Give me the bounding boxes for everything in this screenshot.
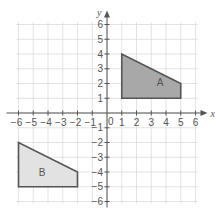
- x-tick-label: −6: [11, 117, 23, 128]
- y-tick-label: 2: [97, 78, 103, 89]
- x-tick-label: −4: [40, 117, 52, 128]
- x-tick-label: −2: [70, 117, 82, 128]
- shape-b-label: B: [39, 167, 46, 178]
- y-tick-label: −3: [92, 152, 104, 163]
- x-tick-label: 4: [163, 117, 169, 128]
- y-tick-label: 6: [97, 19, 103, 30]
- y-axis-label: y: [96, 7, 102, 18]
- shape-a-label: A: [157, 77, 164, 88]
- x-axis-label: x: [210, 108, 216, 119]
- y-tick-label: 5: [97, 34, 103, 45]
- y-axis-arrow-icon: [104, 11, 110, 18]
- x-tick-label: 2: [134, 117, 140, 128]
- origin-label: 0: [108, 116, 114, 127]
- x-tick-label: 1: [119, 117, 125, 128]
- coordinate-grid: AB −6−5−4−3−2−1123456−6−5−4−3−2−1123456 …: [0, 0, 215, 210]
- y-tick-label: −4: [92, 167, 104, 178]
- y-tick-label: 3: [97, 63, 103, 74]
- y-tick-label: 4: [97, 49, 103, 60]
- x-tick-label: −3: [55, 117, 67, 128]
- x-tick-label: 5: [178, 117, 184, 128]
- x-axis-arrow-icon: [201, 110, 208, 116]
- y-tick-label: −2: [92, 137, 104, 148]
- x-tick-label: 3: [148, 117, 154, 128]
- x-tick-label: 6: [193, 117, 199, 128]
- y-tick-label: 1: [97, 93, 103, 104]
- x-tick-label: −5: [26, 117, 38, 128]
- y-tick-label: −6: [92, 196, 104, 207]
- y-tick-label: −1: [92, 122, 104, 133]
- y-tick-label: −5: [92, 181, 104, 192]
